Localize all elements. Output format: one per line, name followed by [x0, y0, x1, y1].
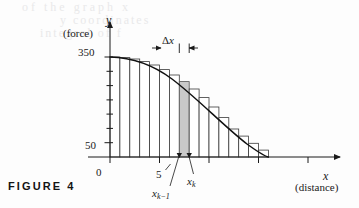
x-k-label: xk [187, 176, 195, 189]
riemann-rect [130, 59, 140, 157]
x-axis-unit-label: (distance) [295, 182, 338, 193]
x-k-minus-1-label: xk−1 [152, 188, 170, 201]
riemann-rect [160, 70, 170, 157]
figure-caption: FIGURE 4 [8, 180, 76, 192]
riemann-rect-highlighted [179, 82, 189, 157]
riemann-rect [140, 62, 150, 157]
y-axis-unit-label: (force) [63, 28, 93, 39]
figure-container: of the graph x y coordinates integral of… [0, 0, 359, 208]
riemann-rect [120, 58, 130, 157]
delta-x-dimension [152, 44, 198, 54]
y-axis-variable-label: y [106, 14, 111, 26]
x-axis-ticks [110, 157, 308, 163]
y-tick-label-50: 50 [85, 140, 96, 151]
x-tick-label-5: 5 [156, 169, 162, 180]
y-tick-label-350: 350 [78, 47, 95, 58]
x-k-minus-1-subscript: k−1 [157, 192, 170, 201]
riemann-sum-plot [0, 0, 359, 208]
riemann-rect [169, 75, 179, 157]
origin-label-0: 0 [96, 167, 102, 178]
riemann-rect [110, 57, 120, 157]
delta-x-label: Δx [162, 35, 174, 46]
riemann-rect [150, 65, 160, 157]
riemann-rect [189, 89, 199, 157]
x-k-subscript: k [192, 180, 196, 189]
delta-x-variable: x [169, 34, 174, 46]
